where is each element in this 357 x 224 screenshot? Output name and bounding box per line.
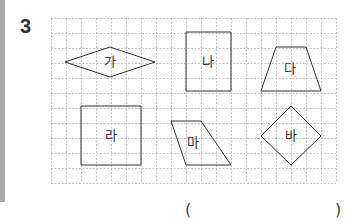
shape-label: 라 <box>105 128 117 143</box>
shape-label: 마 <box>187 135 199 150</box>
shape-label: 바 <box>285 128 297 143</box>
answer-blank[interactable] <box>198 200 330 220</box>
answer-open-paren: ( <box>185 200 191 219</box>
dotted-grid <box>51 18 337 184</box>
shape-parallelogram <box>171 121 231 165</box>
answer-close-paren: ) <box>335 200 341 219</box>
shape-label: 다 <box>284 61 296 76</box>
shape-label: 가 <box>104 54 116 69</box>
shape-label: 나 <box>202 54 214 69</box>
shapes-grid-figure: 가나다라마바 <box>0 0 357 224</box>
shapes-group: 가나다라마바 <box>65 32 321 165</box>
